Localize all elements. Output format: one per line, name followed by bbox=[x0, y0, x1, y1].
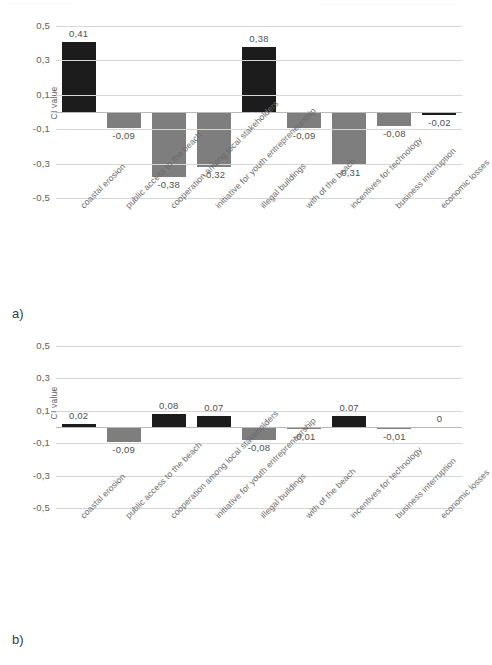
chart-a-y-tick: 0,5 bbox=[36, 21, 50, 31]
bar-value-label: 0,08 bbox=[159, 401, 178, 411]
chart-a-gridline bbox=[56, 60, 462, 61]
bar bbox=[197, 416, 231, 427]
chart-a-gridline bbox=[56, 95, 462, 96]
bar-value-label: -0,09 bbox=[112, 131, 135, 141]
chart-b-gridline bbox=[56, 346, 462, 347]
chart-a-y-tick: -0,1 bbox=[33, 124, 50, 134]
figure-caption bbox=[34, 659, 454, 665]
bar bbox=[332, 416, 366, 427]
bar-value-label: 0,41 bbox=[69, 29, 88, 39]
bar bbox=[152, 414, 186, 427]
chart-b-gridline bbox=[56, 443, 462, 444]
chart-a-gridline bbox=[56, 129, 462, 130]
chart-a-y-tick: -0,3 bbox=[33, 159, 50, 169]
chart-a-gridline bbox=[56, 26, 462, 27]
bar bbox=[107, 427, 141, 442]
bar bbox=[377, 112, 411, 126]
chart-b-y-tick: -0,3 bbox=[33, 471, 50, 481]
chart-b-y-tick: 0,3 bbox=[36, 373, 50, 383]
bar bbox=[62, 42, 96, 113]
bar-value-label: -0,01 bbox=[383, 432, 406, 442]
bar bbox=[107, 112, 141, 128]
bar-value-label: 0,38 bbox=[249, 34, 268, 44]
figure-panel-a: CI value 0,41-0,09-0,38-0,320,38-0,09-0,… bbox=[0, 12, 464, 330]
chart-b-y-tick: 0,1 bbox=[36, 406, 50, 416]
chart-a-y-tick: 0,3 bbox=[36, 55, 50, 65]
scan-header-ghost bbox=[0, 0, 464, 12]
bar-value-label: 0,02 bbox=[69, 411, 88, 421]
chart-a-category-labels: coastal erosionpublic access to the beac… bbox=[56, 204, 462, 324]
bar-value-label: -0,38 bbox=[157, 180, 180, 190]
bar-value-label: -0,08 bbox=[383, 129, 406, 139]
chart-a-y-tick: 0,1 bbox=[36, 90, 50, 100]
panel-b-letter: b) bbox=[12, 632, 24, 647]
chart-b-category-labels: coastal erosionpublic access to the beac… bbox=[56, 514, 462, 634]
chart-b-y-tick: -0,1 bbox=[33, 438, 50, 448]
bar-value-label: -0,09 bbox=[112, 445, 135, 455]
panel-a-letter: a) bbox=[12, 306, 24, 321]
chart-b-y-tick: 0,5 bbox=[36, 341, 50, 351]
chart-b-gridline bbox=[56, 411, 462, 412]
chart-b-y-tick: -0,5 bbox=[33, 503, 50, 513]
figure-panel-b: CI value 0,02-0,090,080,07-0,08-0,010,07… bbox=[0, 332, 464, 652]
chart-b-gridline bbox=[56, 378, 462, 379]
chart-a-y-tick: -0,5 bbox=[33, 193, 50, 203]
bar-value-label: 0 bbox=[437, 414, 442, 424]
bar-value-label: -0,02 bbox=[428, 118, 451, 128]
